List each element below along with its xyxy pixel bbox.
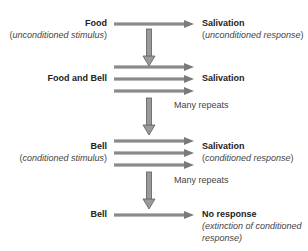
- response-note-unconditioned: (unconditioned response): [202, 30, 304, 41]
- stimulus-bell-extinction: Bell: [90, 209, 107, 220]
- arrow-bell-1: [114, 137, 194, 145]
- response-note-extinction-line1: (extinction of conditioned: [202, 221, 302, 232]
- arrow-food-to-salivation: [114, 20, 194, 28]
- many-repeats-2: Many repeats: [174, 175, 229, 186]
- many-repeats-1: Many repeats: [174, 100, 229, 111]
- arrow-bell-2: [114, 149, 194, 157]
- response-salivation-3: Salivation: [202, 141, 245, 152]
- arrow-food-bell-1: [114, 63, 194, 71]
- stimulus-food-and-bell: Food and Bell: [48, 73, 108, 84]
- response-salivation-2: Salivation: [202, 73, 245, 84]
- response-no-response: No response: [202, 209, 257, 220]
- arrow-food-bell-3: [114, 87, 194, 95]
- stimulus-note-unconditioned: (unconditioned stimulus): [9, 30, 107, 41]
- arrow-food-bell-2: [114, 75, 194, 83]
- down-arrow-1: [143, 29, 155, 66]
- stimulus-bell: Bell: [90, 141, 107, 152]
- response-salivation-1: Salivation: [202, 18, 245, 29]
- stimulus-note-conditioned: (conditioned stimulus): [19, 153, 107, 164]
- stimulus-food: Food: [85, 18, 107, 29]
- arrow-bell-3: [114, 161, 194, 169]
- down-arrow-3: [143, 172, 155, 209]
- response-note-conditioned: (conditioned response): [202, 153, 294, 164]
- down-arrow-2: [143, 98, 155, 135]
- response-note-extinction-line2: response): [202, 233, 242, 244]
- arrow-bell-no-response: [114, 211, 194, 219]
